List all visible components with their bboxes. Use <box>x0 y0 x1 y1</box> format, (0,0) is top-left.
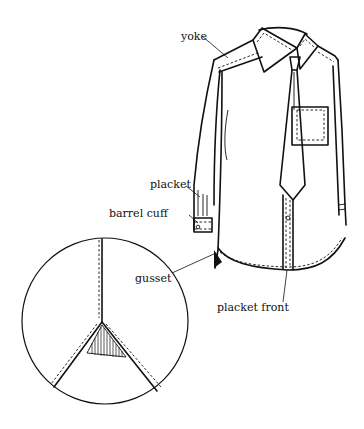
label-yoke: yoke <box>180 30 207 43</box>
label-barrel-cuff: barrel cuff <box>109 207 169 220</box>
shirt-drawing <box>194 28 346 270</box>
gusset-inset <box>22 238 188 404</box>
shirt-diagram: yoke placket barrel cuff gusset placket … <box>0 0 364 429</box>
label-placket-front: placket front <box>217 301 289 314</box>
label-placket: placket <box>150 178 191 191</box>
label-gusset: gusset <box>135 272 172 285</box>
leader-lines <box>172 36 287 302</box>
